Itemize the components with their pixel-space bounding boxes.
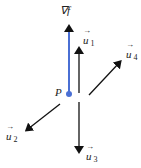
vector-u4-label: u4 (126, 48, 138, 62)
point-p (66, 91, 72, 97)
vector-u2-label: u2 (6, 130, 18, 144)
vector-u2-arrow (28, 104, 60, 129)
gradient-label: ∇f (60, 4, 70, 17)
vector-u1-label: u1 (83, 34, 95, 48)
vector-u3-label: u3 (86, 150, 98, 164)
vector-u4-arrow (89, 63, 119, 95)
point-p-label: P (55, 86, 62, 98)
diagram-canvas (0, 0, 141, 168)
